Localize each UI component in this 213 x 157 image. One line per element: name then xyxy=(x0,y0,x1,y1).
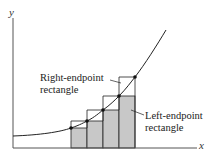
left-endpoint-label: Left-endpoint rectangle xyxy=(145,110,203,134)
y-axis-label: y xyxy=(9,6,14,18)
x-axis-label: x xyxy=(199,139,204,151)
right-endpoint-label: Right-endpoint rectangle xyxy=(40,72,104,96)
riemann-sum-diagram: y x Right-endpoint rectangle Left-endpoi… xyxy=(0,0,213,157)
